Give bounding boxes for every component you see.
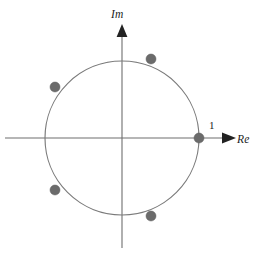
real-axis-label: Re xyxy=(237,134,250,146)
root-point-2 xyxy=(146,54,156,64)
right-arrow-icon xyxy=(222,133,236,144)
root-point-5 xyxy=(146,211,156,221)
root-point-3 xyxy=(50,82,60,92)
root-point-4 xyxy=(50,185,60,195)
complex-plane-figure: Im Re 1 xyxy=(0,0,263,256)
unit-tick-label: 1 xyxy=(209,120,215,131)
root-point-1 xyxy=(194,133,204,143)
imaginary-axis-label: Im xyxy=(111,9,124,21)
figure-canvas xyxy=(0,0,263,256)
up-arrow-icon xyxy=(117,24,128,37)
